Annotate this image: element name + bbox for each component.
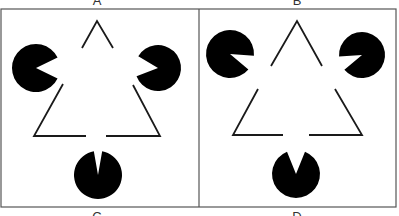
- pacman-left-inducer: [206, 30, 254, 78]
- panel-label-a: A: [93, 0, 102, 7]
- panel-label-b: B: [293, 0, 302, 7]
- panel-label-c: C: [92, 210, 101, 216]
- pacman-right-inducer: [339, 32, 385, 78]
- panel-label-d: D: [292, 210, 301, 216]
- kanizsa-figure: [0, 0, 399, 216]
